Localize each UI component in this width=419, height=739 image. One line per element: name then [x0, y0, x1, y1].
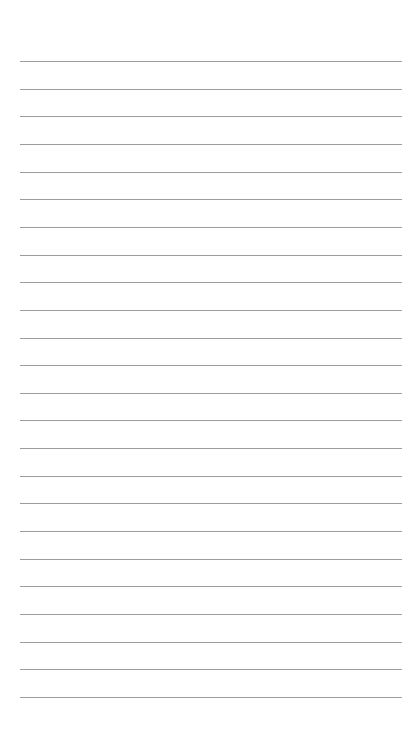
- ruled-line: [20, 669, 402, 670]
- ruled-line: [20, 61, 402, 62]
- ruled-line: [20, 282, 402, 283]
- ruled-line: [20, 365, 402, 366]
- ruled-line: [20, 310, 402, 311]
- ruled-line: [20, 144, 402, 145]
- ruled-line: [20, 116, 402, 117]
- ruled-line: [20, 586, 402, 587]
- ruled-line: [20, 172, 402, 173]
- ruled-line: [20, 448, 402, 449]
- ruled-line: [20, 697, 402, 698]
- ruled-line: [20, 503, 402, 504]
- ruled-line: [20, 531, 402, 532]
- ruled-line: [20, 338, 402, 339]
- ruled-line: [20, 393, 402, 394]
- ruled-line: [20, 255, 402, 256]
- ruled-line: [20, 420, 402, 421]
- ruled-line: [20, 227, 402, 228]
- ruled-line: [20, 614, 402, 615]
- ruled-line: [20, 476, 402, 477]
- ruled-line: [20, 89, 402, 90]
- ruled-line: [20, 559, 402, 560]
- ruled-line: [20, 199, 402, 200]
- lined-paper-page: [0, 0, 419, 739]
- ruled-line: [20, 642, 402, 643]
